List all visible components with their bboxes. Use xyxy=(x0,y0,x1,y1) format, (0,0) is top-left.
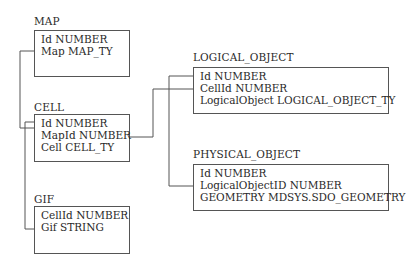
connector-logical-physical xyxy=(169,76,193,186)
entity-box-logical-object: Id NUMBER CellId NUMBER LogicalObject LO… xyxy=(193,67,389,114)
field: LogicalObject LOGICAL_OBJECT_TY xyxy=(200,94,388,106)
entity-title-physical-object: PHYSICAL_OBJECT xyxy=(193,148,300,160)
field: Gif STRING xyxy=(41,221,129,233)
entity-box-map: Id NUMBER Map MAP_TY xyxy=(34,30,130,77)
connector-cell-gif xyxy=(25,122,34,229)
field: Cell CELL_TY xyxy=(41,141,129,153)
entity-box-physical-object: Id NUMBER LogicalObjectID NUMBER GEOMETR… xyxy=(193,164,389,211)
field: Id NUMBER xyxy=(200,70,388,82)
field: Id NUMBER xyxy=(41,33,129,45)
entity-title-logical-object: LOGICAL_OBJECT xyxy=(193,51,294,63)
connector-cell-logical xyxy=(129,89,193,137)
field: GEOMETRY MDSYS.SDO_GEOMETRY xyxy=(200,191,388,203)
entity-box-gif: CellId NUMBER Gif STRING xyxy=(34,206,130,254)
entity-title-cell: CELL xyxy=(34,101,64,113)
field: MapId NUMBER xyxy=(41,129,129,141)
field: Id NUMBER xyxy=(41,117,129,129)
field: CellId NUMBER xyxy=(41,209,129,221)
entity-title-gif: GIF xyxy=(34,193,54,205)
field: Map MAP_TY xyxy=(41,45,129,57)
entity-title-map: MAP xyxy=(34,15,60,27)
field: Id NUMBER xyxy=(200,167,388,179)
connector-map-cell xyxy=(20,51,34,128)
field: LogicalObjectID NUMBER xyxy=(200,179,388,191)
entity-box-cell: Id NUMBER MapId NUMBER Cell CELL_TY xyxy=(34,114,130,162)
field: CellId NUMBER xyxy=(200,82,388,94)
